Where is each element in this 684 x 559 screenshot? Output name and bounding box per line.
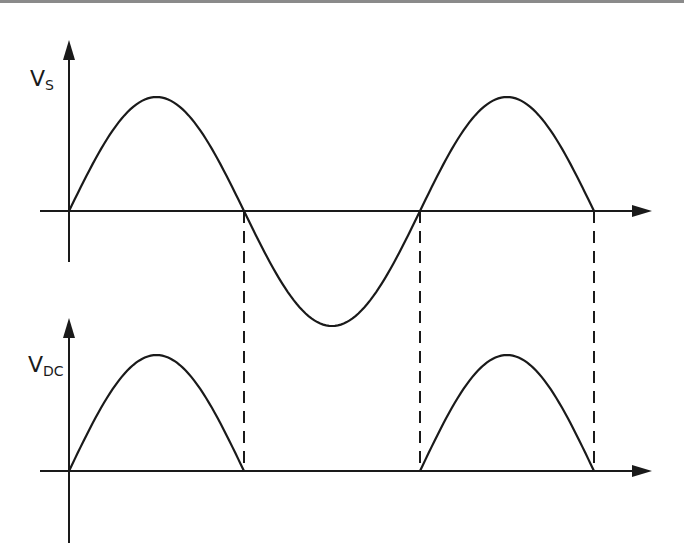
vdc-label-sub: DC <box>43 363 64 379</box>
vs-label-sub: S <box>45 77 54 93</box>
vdc-rectified-waveform <box>69 355 594 471</box>
vs-y-axis-arrow-icon <box>63 40 75 60</box>
vs-label-main: V <box>30 66 45 91</box>
vdc-label: VDC <box>28 354 64 376</box>
vdc-y-axis-arrow-icon <box>63 318 75 338</box>
vs-x-axis-arrow-icon <box>632 205 652 217</box>
vs-label: VS <box>30 68 54 90</box>
rectifier-waveform-diagram <box>0 0 684 559</box>
vdc-label-main: V <box>28 352 43 377</box>
vdc-x-axis-arrow-icon <box>632 465 652 477</box>
